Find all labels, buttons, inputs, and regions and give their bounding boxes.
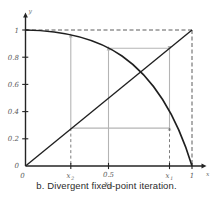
x-tick-label-0-5: 0.5 <box>103 171 115 179</box>
y-tick-label-1: 1 <box>15 27 19 35</box>
fixed-point-iteration-plot: y x 1 0.8 0.6 0.4 0.2 0 0 x 2 0.5 x 0 <box>0 0 213 199</box>
y-tick-label-0-4: 0.4 <box>8 108 19 116</box>
figure-caption: b. Divergent fixed-point iteration. <box>0 180 213 191</box>
x-tick-label-0: 0 <box>20 172 25 180</box>
x-tick-label-x1-base: x <box>166 172 170 180</box>
x-axis-label: x <box>206 170 210 177</box>
y-tick-label-0-6: 0.6 <box>8 81 20 89</box>
y-axis-arrow <box>23 13 28 18</box>
y-tick-label-0-8: 0.8 <box>8 54 20 62</box>
y-tick-label-0-2: 0.2 <box>8 135 20 143</box>
x-tick-label-1: 1 <box>190 172 194 180</box>
y-tick-label-0: 0 <box>15 162 20 170</box>
figure-container: y x 1 0.8 0.6 0.4 0.2 0 0 x 2 0.5 x 0 <box>0 0 213 199</box>
y-axis-label: y <box>28 7 33 15</box>
x-tick-label-x2-base: x <box>67 172 71 180</box>
cobweb-path-group <box>69 33 171 166</box>
x-axis-arrow <box>202 164 207 169</box>
y-tick-labels-group: 1 0.8 0.6 0.4 0.2 0 <box>8 27 20 171</box>
